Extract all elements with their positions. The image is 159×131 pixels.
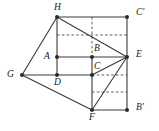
vertex-dot-g [20, 73, 24, 77]
solid-edges-group [22, 17, 127, 110]
vertex-dots-group [20, 15, 129, 112]
vertex-dot-b [90, 55, 94, 59]
vertex-label-d: D [54, 78, 61, 88]
vertex-label-b: B [94, 44, 100, 54]
vertex-label-cp: C′ [136, 8, 144, 18]
vertex-label-bp: B′ [136, 103, 144, 113]
vertex-label-e: E [136, 50, 142, 60]
vertex-dot-cp [125, 15, 129, 19]
geometry-figure: HC′ABEGDCFB′ [0, 0, 159, 131]
vertex-label-f: F [89, 113, 95, 123]
edge-H-G [22, 17, 57, 75]
vertex-label-g: G [7, 70, 14, 80]
vertex-label-h: H [54, 3, 61, 13]
vertex-dot-a [55, 55, 59, 59]
vertex-label-c: C [94, 62, 100, 72]
vertex-dot-e [125, 55, 129, 59]
vertex-label-a: A [44, 52, 50, 62]
vertex-dot-h [55, 15, 59, 19]
vertex-dot-c [90, 73, 94, 77]
vertex-dot-bp [125, 108, 129, 112]
